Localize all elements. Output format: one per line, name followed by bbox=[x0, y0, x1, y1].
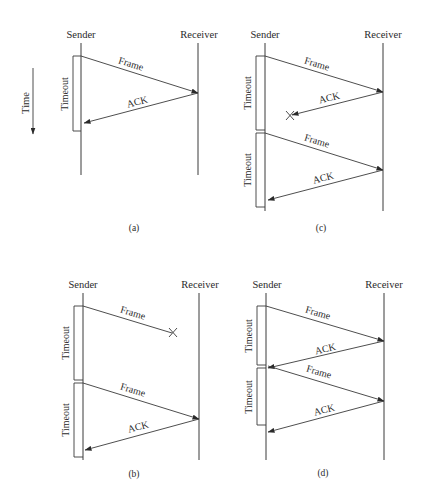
panel-d: Sender Receiver Timeout Timeout Frame AC… bbox=[243, 279, 403, 479]
receiver-label: Receiver bbox=[365, 279, 403, 290]
timeout-label: Timeout bbox=[242, 76, 253, 110]
timeout-label: Timeout bbox=[243, 380, 254, 414]
caption: (b) bbox=[128, 469, 139, 480]
frame-label: Frame bbox=[119, 304, 147, 322]
timeout-bracket bbox=[257, 306, 266, 365]
diagram-svg: Time Sender Receiver Timeout Frame ACK (… bbox=[0, 0, 428, 500]
panel-a: Sender Receiver Timeout Frame ACK (a) bbox=[59, 29, 218, 234]
timeout-label: Timeout bbox=[60, 403, 71, 437]
sender-label: Sender bbox=[66, 29, 96, 40]
time-label: Time bbox=[20, 92, 31, 114]
timeout-bracket bbox=[257, 368, 266, 425]
timeout-bracket bbox=[73, 56, 81, 131]
frame-label: Frame bbox=[119, 381, 147, 399]
receiver-label: Receiver bbox=[181, 279, 219, 290]
frame-label: Frame bbox=[117, 55, 145, 73]
frame-label: Frame bbox=[303, 132, 331, 150]
frame-label: Frame bbox=[303, 55, 331, 73]
ack-label: ACK bbox=[314, 341, 338, 357]
caption: (c) bbox=[316, 223, 327, 234]
timeout-label: Timeout bbox=[59, 77, 70, 111]
timeout-label: Timeout bbox=[243, 319, 254, 353]
caption: (d) bbox=[317, 468, 328, 479]
timeout-bracket bbox=[74, 306, 83, 380]
stop-and-wait-diagram: Time Sender Receiver Timeout Frame ACK (… bbox=[0, 0, 428, 500]
caption: (a) bbox=[129, 223, 140, 234]
receiver-label: Receiver bbox=[180, 29, 218, 40]
panel-c: Sender Receiver Timeout Timeout Frame AC… bbox=[242, 29, 402, 234]
ack-label: ACK bbox=[125, 93, 149, 109]
sender-label: Sender bbox=[252, 279, 282, 290]
receiver-label: Receiver bbox=[364, 29, 402, 40]
timeout-bracket bbox=[256, 56, 265, 130]
lost-x-icon bbox=[286, 111, 294, 120]
timeout-label: Timeout bbox=[242, 153, 253, 187]
timeout-bracket bbox=[256, 133, 265, 207]
sender-label: Sender bbox=[250, 29, 280, 40]
panel-b: Sender Receiver Timeout Timeout Frame Fr… bbox=[60, 279, 219, 480]
ack-label: ACK bbox=[126, 418, 150, 434]
frame-label: Frame bbox=[305, 363, 333, 381]
sender-label: Sender bbox=[68, 279, 98, 290]
timeout-label: Timeout bbox=[60, 326, 71, 360]
ack-label: ACK bbox=[312, 401, 336, 417]
timeout-bracket bbox=[74, 383, 83, 457]
time-axis: Time bbox=[20, 68, 33, 134]
